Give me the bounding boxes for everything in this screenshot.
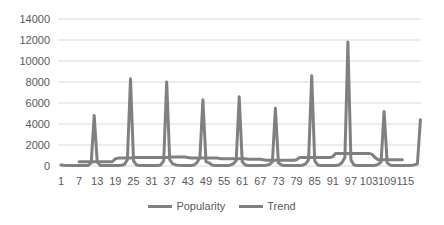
legend-label-trend: Trend <box>267 200 295 212</box>
y-tick-label: 6000 <box>26 97 50 109</box>
x-tick-label: 13 <box>91 175 103 187</box>
x-tick-label: 55 <box>218 175 230 187</box>
x-tick-label: 1 <box>58 175 64 187</box>
x-tick-label: 25 <box>127 175 139 187</box>
x-tick-label: 73 <box>272 175 284 187</box>
chart-legend: Popularity Trend <box>0 200 444 212</box>
x-tick-label: 61 <box>236 175 248 187</box>
x-tick-label: 49 <box>200 175 212 187</box>
line-chart: 0200040006000800010000120001400017131925… <box>0 0 444 225</box>
x-tick-label: 91 <box>327 175 339 187</box>
x-tick-label: 109 <box>378 175 396 187</box>
x-tick-label: 115 <box>397 175 415 187</box>
y-tick-label: 10000 <box>19 55 50 67</box>
x-tick-label: 19 <box>109 175 121 187</box>
legend-label-popularity: Popularity <box>176 200 225 212</box>
x-tick-label: 103 <box>360 175 378 187</box>
chart-plot-area: 0200040006000800010000120001400017131925… <box>0 0 444 200</box>
y-tick-label: 2000 <box>26 139 50 151</box>
x-tick-label: 67 <box>254 175 266 187</box>
x-tick-label: 79 <box>290 175 302 187</box>
legend-item-popularity: Popularity <box>148 200 225 212</box>
y-tick-label: 14000 <box>19 13 50 25</box>
y-tick-label: 8000 <box>26 76 50 88</box>
x-tick-label: 31 <box>145 175 157 187</box>
x-tick-label: 85 <box>309 175 321 187</box>
legend-swatch-popularity <box>148 205 172 208</box>
x-tick-label: 7 <box>76 175 82 187</box>
x-tick-label: 97 <box>345 175 357 187</box>
legend-item-trend: Trend <box>239 200 295 212</box>
y-tick-label: 4000 <box>26 118 50 130</box>
y-tick-label: 0 <box>44 160 50 172</box>
x-tick-label: 37 <box>164 175 176 187</box>
legend-swatch-trend <box>239 205 263 208</box>
x-tick-label: 43 <box>182 175 194 187</box>
y-tick-label: 12000 <box>19 34 50 46</box>
